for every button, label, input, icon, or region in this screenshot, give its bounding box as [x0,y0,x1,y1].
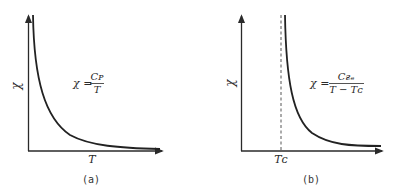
figure: χ χ = Cᴘ T T (a) χ χ = Cғₑ T − Tᴄ Tᴄ (b) [0,0,400,195]
curvature-curve [33,15,160,149]
formula-denominator: T [94,84,102,95]
formula-lhs: χ = [72,77,92,90]
panel-b: χ χ = Cғₑ T − Tᴄ Tᴄ (b) [223,15,382,185]
formula-numerator: Cғₑ [338,71,355,82]
tc-tick-label: Tᴄ [274,153,288,166]
formula-denominator: T − Tᴄ [329,84,363,95]
y-axis-label: χ [9,82,23,91]
caption-a: (a) [82,174,100,185]
y-axis-label: χ [223,79,237,88]
curvature-curve [285,15,381,146]
x-axis-label: T [88,153,97,166]
formula-lhs: χ = [309,77,329,90]
caption-b: (b) [302,174,320,185]
panel-a: χ χ = Cᴘ T T (a) [9,15,162,185]
formula-numerator: Cᴘ [90,71,104,82]
